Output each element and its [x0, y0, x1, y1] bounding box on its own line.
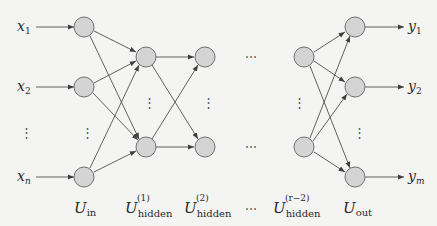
hidden-node — [136, 47, 156, 67]
input-label: x2 — [17, 78, 31, 96]
layer-label-out: Uout — [343, 199, 372, 218]
edges-input-hidden1 — [90, 31, 139, 172]
input-arrows — [36, 27, 74, 177]
output-node — [345, 17, 365, 37]
svg-text:⋮: ⋮ — [353, 125, 366, 140]
horizontal-ellipses: ⋯ ⋯ ⋯ — [245, 50, 257, 216]
layer-label-in: Uin — [74, 199, 97, 218]
output-layer-nodes — [345, 17, 365, 187]
input-layer-nodes — [74, 17, 94, 187]
output-label: y1 — [407, 18, 422, 36]
edges-hidden1-hidden2 — [152, 57, 198, 147]
svg-text:⋮: ⋮ — [293, 95, 306, 110]
output-node — [345, 77, 365, 97]
input-node — [74, 167, 94, 187]
layer-labels: Uin Uhidden (1) Uhidden (2) Uhidden (r−2… — [74, 193, 372, 219]
layer-label-hidden2-sup: (2) — [196, 193, 209, 203]
hidden-node — [136, 137, 156, 157]
output-labels: y1 y2 ym — [407, 18, 424, 186]
output-arrows — [365, 27, 404, 177]
input-node — [74, 77, 94, 97]
svg-text:⋯: ⋯ — [245, 140, 257, 154]
output-node — [345, 167, 365, 187]
svg-text:⋮: ⋮ — [20, 125, 33, 140]
output-label: y2 — [407, 78, 422, 96]
svg-text:⋯: ⋯ — [245, 202, 257, 216]
input-node — [74, 17, 94, 37]
hidden-node — [294, 47, 314, 67]
hidden-node — [294, 137, 314, 157]
input-label: xn — [17, 168, 31, 186]
layer-label-hidden1-sup: (1) — [137, 193, 150, 203]
input-labels: x1 x2 xn — [17, 18, 31, 186]
svg-text:⋮: ⋮ — [143, 95, 156, 110]
neural-network-diagram: ⋮ ⋮ ⋮ ⋮ ⋮ ⋮ ⋯ ⋯ ⋯ x1 x2 xn y1 y2 ym Uin … — [0, 0, 437, 226]
output-label: ym — [407, 168, 424, 186]
layer-label-hiddenlast-sup: (r−2) — [285, 193, 310, 203]
edges-hiddenlast-output — [310, 32, 350, 172]
svg-text:⋯: ⋯ — [245, 50, 257, 64]
input-label: x1 — [17, 18, 31, 36]
hidden-node — [195, 47, 215, 67]
hidden-node — [195, 137, 215, 157]
svg-text:⋮: ⋮ — [202, 95, 215, 110]
svg-text:⋮: ⋮ — [81, 125, 94, 140]
vertical-ellipses: ⋮ ⋮ ⋮ ⋮ ⋮ ⋮ — [20, 95, 366, 140]
